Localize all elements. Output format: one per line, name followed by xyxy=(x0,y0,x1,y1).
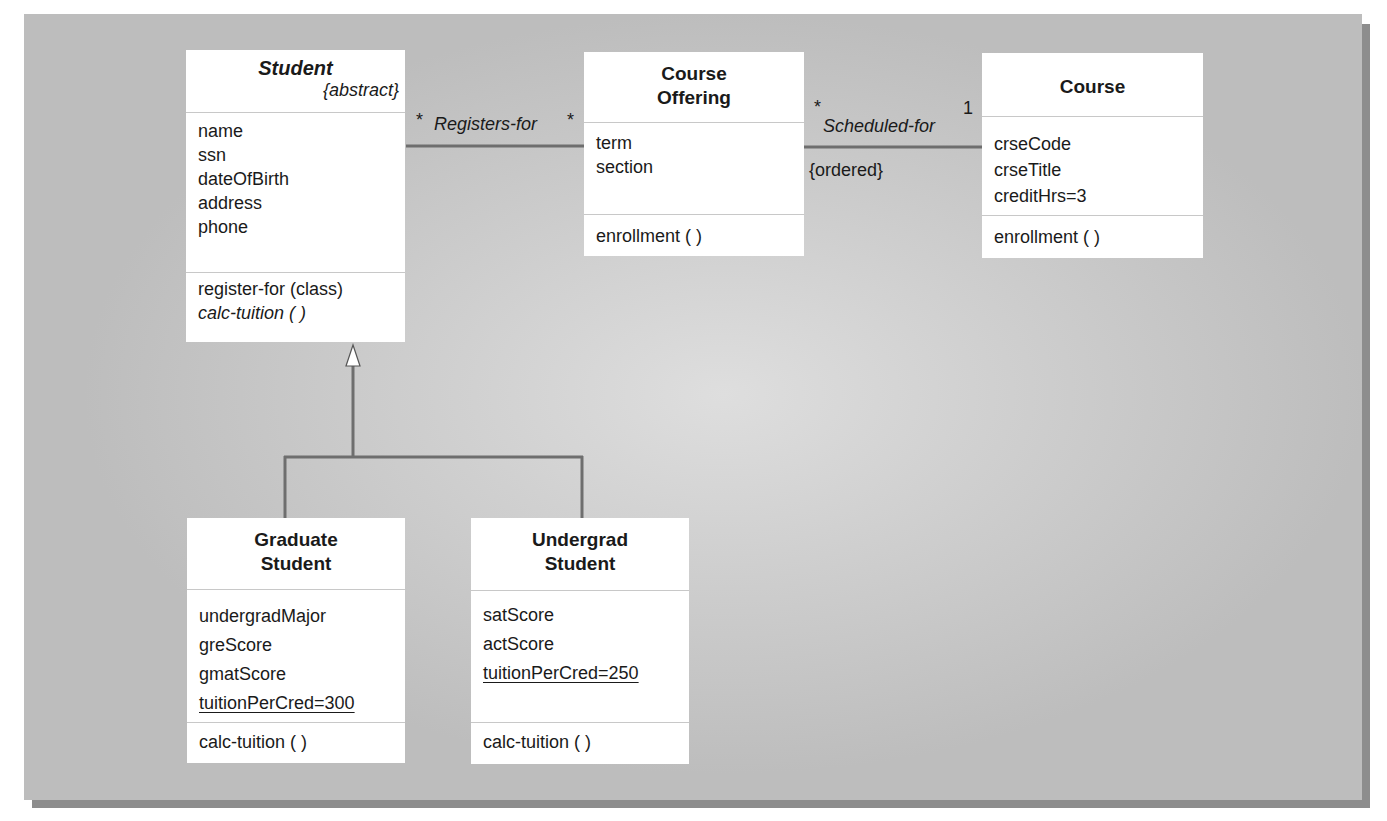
generalization-connector xyxy=(284,345,583,518)
operations-section: register-for (class) calc-tuition ( ) xyxy=(186,273,405,325)
attributes-section: crseCode crseTitle creditHrs=3 xyxy=(982,117,1203,216)
operations-section: enrollment ( ) xyxy=(982,216,1203,249)
operation: enrollment ( ) xyxy=(596,224,804,248)
abstract-stereotype: {abstract} xyxy=(186,80,405,100)
operation: enrollment ( ) xyxy=(994,225,1203,249)
class-name-line2: Student xyxy=(471,552,689,576)
attribute: satScore xyxy=(483,601,689,630)
operation: calc-tuition ( ) xyxy=(199,730,405,754)
attribute: ssn xyxy=(198,143,405,167)
class-name: Course xyxy=(982,75,1203,99)
registers-for-multiplicity-offering: * xyxy=(567,110,574,131)
operation-abstract: calc-tuition ( ) xyxy=(198,301,405,325)
operation: register-for (class) xyxy=(198,277,405,301)
attributes-section: name ssn dateOfBirth address phone xyxy=(186,113,405,273)
class-scope-attribute: tuitionPerCred=250 xyxy=(483,659,689,688)
attribute: crseTitle xyxy=(994,157,1203,183)
class-name-line2: Offering xyxy=(584,86,804,110)
class-name-line1: Graduate xyxy=(187,528,405,552)
attribute: greScore xyxy=(199,631,405,660)
class-undergrad-student[interactable]: Undergrad Student satScore actScore tuit… xyxy=(471,518,689,764)
attributes-section: term section xyxy=(584,123,804,215)
scheduled-for-association-name: Scheduled-for xyxy=(823,116,935,137)
attribute: gmatScore xyxy=(199,660,405,689)
class-scope-attribute: tuitionPerCred=300 xyxy=(199,689,405,718)
generalization-arrowhead-icon xyxy=(346,345,360,366)
attribute: address xyxy=(198,191,405,215)
class-course[interactable]: Course crseCode crseTitle creditHrs=3 en… xyxy=(982,53,1203,258)
attribute: actScore xyxy=(483,630,689,659)
scheduled-for-multiplicity-offering: * xyxy=(814,97,821,118)
class-name-line1: Undergrad xyxy=(471,528,689,552)
class-course-offering[interactable]: Course Offering term section enrollment … xyxy=(584,52,804,256)
class-name-line1: Course xyxy=(584,62,804,86)
attributes-section: undergradMajor greScore gmatScore tuitio… xyxy=(187,590,405,723)
class-header: Graduate Student xyxy=(187,518,405,590)
attribute: name xyxy=(198,119,405,143)
class-header: Student {abstract} xyxy=(186,50,405,113)
attribute: dateOfBirth xyxy=(198,167,405,191)
operations-section: enrollment ( ) xyxy=(584,215,804,248)
attribute: section xyxy=(596,155,804,179)
class-header: Course Offering xyxy=(584,52,804,123)
attributes-section: satScore actScore tuitionPerCred=250 xyxy=(471,591,689,723)
registers-for-multiplicity-student: * xyxy=(416,110,423,131)
scheduled-for-multiplicity-course: 1 xyxy=(963,98,973,119)
registers-for-association-name: Registers-for xyxy=(434,114,537,135)
class-name-line2: Student xyxy=(187,552,405,576)
attribute: undergradMajor xyxy=(199,602,405,631)
attribute: term xyxy=(596,131,804,155)
class-header: Course xyxy=(982,53,1203,117)
attribute: crseCode xyxy=(994,131,1203,157)
operations-section: calc-tuition ( ) xyxy=(471,723,689,754)
class-header: Undergrad Student xyxy=(471,518,689,591)
operation: calc-tuition ( ) xyxy=(483,730,689,754)
attribute: creditHrs=3 xyxy=(994,183,1203,209)
operations-section: calc-tuition ( ) xyxy=(187,723,405,754)
attribute: phone xyxy=(198,215,405,239)
class-graduate-student[interactable]: Graduate Student undergradMajor greScore… xyxy=(187,518,405,763)
class-name: Student xyxy=(186,56,405,80)
class-student[interactable]: Student {abstract} name ssn dateOfBirth … xyxy=(186,50,405,342)
ordered-constraint: {ordered} xyxy=(809,160,883,181)
